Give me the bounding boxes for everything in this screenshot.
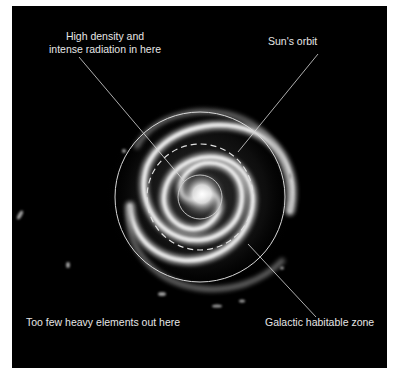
galaxy-diagram-panel: High density and intense radiation in he… xyxy=(12,6,387,368)
spiral-galaxy-illustration xyxy=(12,6,387,368)
core-radiation-label: High density and intense radiation in he… xyxy=(30,30,180,56)
core-label-line2: intense radiation in here xyxy=(30,43,180,56)
sun-orbit-label: Sun's orbit xyxy=(268,35,317,48)
habitable-zone-label: Galactic habitable zone xyxy=(265,316,374,329)
core-label-line1: High density and xyxy=(30,30,180,43)
outer-region-label: Too few heavy elements out here xyxy=(26,316,180,329)
sun-orbit-leader-line xyxy=(238,54,318,152)
